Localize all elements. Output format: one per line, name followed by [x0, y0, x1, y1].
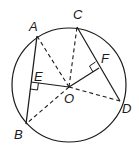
label-e: E [34, 69, 43, 84]
label-o: O [64, 91, 74, 106]
label-b: B [14, 127, 23, 142]
circle-diagram: A B C D E F O [0, 0, 139, 159]
label-d: D [122, 101, 131, 116]
radius-od [69, 87, 120, 101]
radius-oc [69, 27, 77, 87]
label-a: A [28, 19, 38, 34]
radius-ob [26, 87, 69, 124]
segment-of [69, 68, 99, 87]
chord-cd [77, 27, 120, 101]
label-f: F [101, 51, 110, 66]
label-c: C [73, 7, 83, 22]
